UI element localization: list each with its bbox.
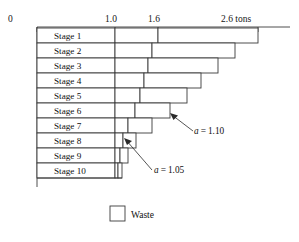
bar-row-stage-6: Stage 6 — [37, 103, 170, 118]
stage-label-3: Stage 3 — [54, 61, 82, 71]
bar-row-stage-1: Stage 1 — [37, 28, 258, 43]
bar-segment-waste-3 — [148, 58, 218, 73]
annotation-value-2: 1.05 — [168, 165, 185, 175]
annotation-label-2: a=1.05 — [154, 165, 185, 175]
axis-tick-label-0: 0 — [8, 14, 13, 24]
annotation-symbol-2: a — [154, 165, 159, 175]
bar-segment-waste-9 — [120, 148, 128, 163]
bar-row-stage-4: Stage 4 — [37, 73, 201, 88]
stage-label-8: Stage 8 — [54, 136, 82, 146]
bar-row-stage-10: Stage 10 — [37, 163, 122, 178]
bar-segment-waste-7 — [128, 118, 152, 133]
stage-label-10: Stage 10 — [54, 166, 86, 176]
annotation-equals-1: = — [201, 126, 206, 136]
bar-segment-mid-4 — [115, 73, 144, 88]
bar-row-stage-5: Stage 5 — [37, 88, 187, 103]
bar-segment-waste-1 — [158, 28, 258, 43]
legend-label-waste: Waste — [131, 210, 154, 220]
bar-segment-mid-5 — [115, 88, 140, 103]
bar-row-stage-3: Stage 3 — [37, 58, 218, 73]
bar-row-stage-2: Stage 2 — [37, 43, 235, 58]
annotation-label-1: a=1.10 — [194, 126, 225, 136]
bar-segment-waste-10 — [118, 163, 122, 178]
annotation-symbol-1: a — [194, 126, 199, 136]
bar-row-stage-7: Stage 7 — [37, 118, 152, 133]
bar-segment-mid-3 — [115, 58, 148, 73]
annotation-a-1-10: a=1.10 — [170, 113, 225, 136]
bar-segment-mid-8 — [115, 133, 123, 148]
bar-row-stage-8: Stage 8 — [37, 133, 136, 148]
bar-segment-mid-9 — [115, 148, 120, 163]
stage-label-5: Stage 5 — [54, 91, 82, 101]
annotation-value-1: 1.10 — [208, 126, 225, 136]
stage-label-4: Stage 4 — [54, 76, 82, 86]
axis-tick-label-1: 1.0 — [105, 14, 117, 24]
annotation-equals-2: = — [161, 165, 166, 175]
bar-row-stage-9: Stage 9 — [37, 148, 128, 163]
axis-tick-label-3: 2.6 tons — [221, 14, 251, 24]
bar-segment-mid-6 — [115, 103, 135, 118]
legend: Waste — [110, 206, 154, 221]
axis-tick-label-2: 1.6 — [148, 14, 160, 24]
bar-segment-waste-2 — [152, 43, 235, 58]
stage-label-1: Stage 1 — [54, 31, 82, 41]
staged-waste-bar-chart: 0 1.0 1.6 2.6 tons Stage 1 Stage 2 — [0, 0, 299, 242]
bar-segment-mid-7 — [115, 118, 128, 133]
bar-segment-waste-4 — [144, 73, 201, 88]
bar-segment-waste-6 — [135, 103, 170, 118]
stage-label-2: Stage 2 — [54, 46, 82, 56]
stage-label-6: Stage 6 — [54, 106, 82, 116]
stage-label-9: Stage 9 — [54, 151, 82, 161]
bar-segment-mid-2 — [115, 43, 152, 58]
bar-segment-waste-5 — [140, 88, 187, 103]
legend-swatch-waste — [110, 206, 125, 221]
stage-label-7: Stage 7 — [54, 121, 82, 131]
chart-canvas: 0 1.0 1.6 2.6 tons Stage 1 Stage 2 — [0, 0, 299, 242]
annotation-leader-line-2 — [126, 140, 152, 170]
bar-segment-mid-1 — [115, 28, 158, 43]
